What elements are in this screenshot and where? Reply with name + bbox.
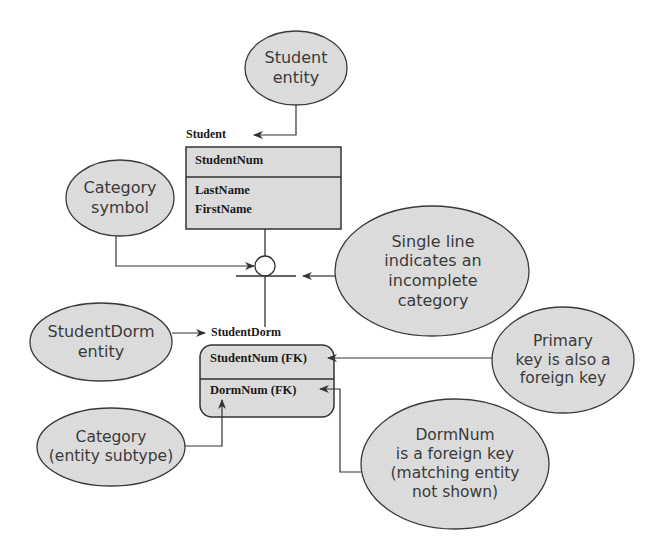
category-symbol-arrow bbox=[116, 236, 254, 266]
studentdorm-attr-dormnum: DormNum (FK) bbox=[210, 383, 296, 398]
category-circle-icon bbox=[255, 256, 275, 276]
student-key-attr: StudentNum bbox=[195, 153, 263, 168]
student-entity-title: Student bbox=[186, 127, 226, 142]
category-symbol-callout: Categorysymbol bbox=[66, 160, 174, 236]
student-entity-arrow bbox=[254, 105, 296, 135]
dormnum-fk-callout: DormNumis a foreign key(matching entityn… bbox=[361, 399, 549, 529]
studentdorm-entity-title: StudentDorm bbox=[211, 325, 281, 340]
studentdorm-entity-callout: StudentDormentity bbox=[30, 303, 172, 381]
student-attr-firstname: FirstName bbox=[195, 202, 252, 217]
student-attr-lastname: LastName bbox=[195, 183, 250, 198]
studentdorm-key-attr: StudentNum (FK) bbox=[210, 351, 307, 366]
student-entity-callout: Studententity bbox=[246, 32, 346, 104]
primary-key-callout: Primarykey is also aforeign key bbox=[492, 307, 634, 413]
category-subtype-callout: Category(entity subtype) bbox=[37, 408, 185, 486]
